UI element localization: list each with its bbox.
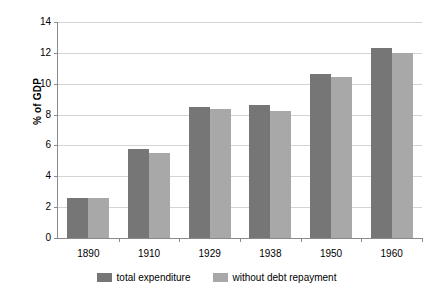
legend-item: total expenditure — [97, 272, 191, 283]
bar — [210, 109, 231, 238]
bar — [371, 48, 392, 238]
bar — [270, 111, 291, 238]
y-axis-tick — [54, 115, 58, 116]
bar — [392, 53, 413, 238]
bar — [310, 74, 331, 238]
legend-item: without debt repayment — [213, 272, 337, 283]
bar — [189, 107, 210, 238]
gridline — [58, 53, 422, 54]
y-axis-tick — [54, 53, 58, 54]
gridline — [58, 84, 422, 85]
x-axis-tick-label: 1910 — [138, 248, 160, 260]
y-axis-tick-label: 6 — [45, 140, 51, 150]
legend-swatch — [97, 273, 112, 282]
y-axis-tick-label: 0 — [45, 233, 51, 243]
gridline — [58, 115, 422, 116]
gridline — [58, 176, 422, 177]
y-axis-tick-label: 4 — [45, 171, 51, 181]
x-axis-tick-label: 1960 — [381, 248, 403, 260]
x-axis-tick-label: 1890 — [77, 248, 99, 260]
y-axis-tick-label: 2 — [45, 202, 51, 212]
bar — [128, 149, 149, 238]
gridline — [58, 207, 422, 208]
legend-swatch — [213, 273, 228, 282]
y-axis-tick-label: 8 — [45, 110, 51, 120]
x-axis-tick-label: 1950 — [320, 248, 342, 260]
bar — [88, 198, 109, 238]
y-axis-tick-label: 12 — [40, 48, 51, 58]
y-axis-tick — [54, 207, 58, 208]
x-axis-tick-label: 1938 — [259, 248, 281, 260]
y-axis-tick — [54, 145, 58, 146]
y-axis-tick — [54, 176, 58, 177]
x-axis-tick-label: 1929 — [199, 248, 221, 260]
x-axis-tick — [119, 238, 120, 242]
y-axis-tick-label: 14 — [40, 17, 51, 27]
x-axis-tick — [422, 238, 423, 242]
legend-label: without debt repayment — [233, 272, 337, 283]
y-axis-tick — [54, 84, 58, 85]
y-axis-tick-label: 10 — [40, 79, 51, 89]
x-axis-tick — [240, 238, 241, 242]
y-axis-tick — [54, 22, 58, 23]
bar — [149, 153, 170, 238]
gridline — [58, 145, 422, 146]
x-axis-tick — [179, 238, 180, 242]
gridline — [58, 22, 422, 23]
bar-chart: % of GDP 0246810121418901910192919381950… — [0, 0, 433, 298]
chart-legend: total expenditurewithout debt repayment — [0, 272, 433, 283]
x-axis-tick — [361, 238, 362, 242]
x-axis-tick — [301, 238, 302, 242]
plot-area: 02468101214189019101929193819501960 — [57, 22, 422, 239]
bar — [331, 77, 352, 238]
bar — [67, 198, 88, 238]
y-axis-tick — [54, 238, 58, 239]
bar — [249, 105, 270, 238]
legend-label: total expenditure — [117, 272, 191, 283]
